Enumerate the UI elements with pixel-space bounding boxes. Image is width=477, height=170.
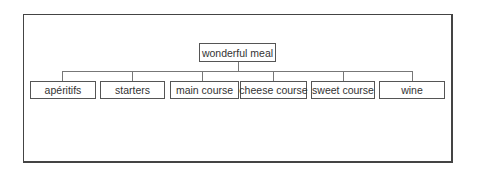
child-node-label: apéritifs xyxy=(45,84,82,96)
child-node-label: main course xyxy=(176,84,233,96)
child-node-label: sweet course xyxy=(312,84,374,96)
child-node-label: wine xyxy=(401,84,423,96)
child-node-sweet-course: sweet course xyxy=(311,81,375,99)
root-node-label: wonderful meal xyxy=(202,47,273,59)
child-node-cheese-course: cheese course xyxy=(240,81,307,99)
child-connector xyxy=(273,71,274,81)
root-connector-vertical xyxy=(238,62,239,71)
child-node-wine: wine xyxy=(379,81,445,99)
child-node-label: cheese course xyxy=(239,84,307,96)
child-node-label: starters xyxy=(115,84,150,96)
child-node-aperitifs: apéritifs xyxy=(30,81,96,99)
child-connector xyxy=(343,71,344,81)
child-connector xyxy=(202,71,203,81)
child-connector xyxy=(62,71,63,81)
child-node-main-course: main course xyxy=(170,81,239,99)
horizontal-connector xyxy=(62,71,413,72)
child-node-starters: starters xyxy=(100,81,165,99)
child-connector xyxy=(132,71,133,81)
root-node: wonderful meal xyxy=(199,43,276,62)
child-connector xyxy=(412,71,413,81)
